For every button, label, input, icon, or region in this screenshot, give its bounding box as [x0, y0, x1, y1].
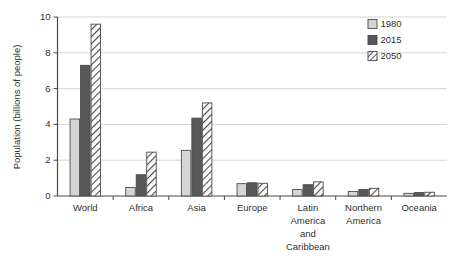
bar-oceania-1980 — [404, 193, 414, 196]
bar-europe-2015 — [248, 183, 258, 196]
chart-canvas: 0246810 WorldAfricaAsiaEuropeLatinAmeric… — [0, 0, 455, 263]
legend-swatch-2015 — [368, 36, 377, 45]
bar-asia-2050 — [202, 103, 212, 196]
bar-northern-america-1980 — [348, 192, 358, 196]
bar-europe-2050 — [258, 183, 268, 196]
x-axis-label: Oceania — [401, 202, 437, 213]
bar-latin-america-and-caribbean-1980 — [293, 190, 303, 196]
x-axis-label: and — [300, 228, 316, 239]
chart-legend: 198020152050 — [368, 18, 402, 61]
bar-northern-america-2015 — [359, 190, 369, 196]
legend-label-1980: 1980 — [381, 18, 402, 29]
bar-world-2050 — [91, 24, 101, 196]
y-tick-label: 6 — [45, 83, 50, 94]
bar-oceania-2015 — [414, 193, 424, 196]
bar-latin-america-and-caribbean-2015 — [303, 185, 313, 196]
bar-chart-figure: 0246810 WorldAfricaAsiaEuropeLatinAmeric… — [0, 0, 455, 263]
legend-swatch-2050 — [368, 52, 377, 61]
y-tick-label: 8 — [45, 47, 50, 58]
legend-label-2050: 2050 — [381, 50, 402, 61]
x-axis-label: America — [290, 215, 326, 226]
y-tick-label: 2 — [45, 154, 50, 165]
y-tick-label: 0 — [45, 190, 50, 201]
x-axis-label: World — [73, 202, 98, 213]
x-axis-label: Africa — [129, 202, 154, 213]
bar-world-1980 — [70, 119, 80, 196]
x-axis-label: Latin — [298, 202, 319, 213]
bar-latin-america-and-caribbean-2050 — [314, 182, 324, 196]
bar-africa-2015 — [136, 175, 146, 196]
bar-africa-2050 — [147, 152, 157, 196]
bar-europe-1980 — [237, 184, 247, 196]
y-tick-label: 4 — [45, 118, 50, 129]
legend-swatch-1980 — [368, 20, 377, 29]
bar-asia-1980 — [181, 150, 191, 196]
bar-northern-america-2050 — [369, 188, 379, 196]
x-axis-label: Asia — [187, 202, 206, 213]
y-tick-label: 10 — [40, 11, 51, 22]
bar-asia-2015 — [192, 118, 202, 196]
bar-oceania-2050 — [425, 192, 435, 196]
bar-world-2015 — [81, 65, 91, 196]
x-axis-label: America — [346, 215, 382, 226]
y-axis-title: Population (billions of people) — [11, 45, 22, 170]
x-axis-label: Caribbean — [286, 241, 330, 252]
legend-label-2015: 2015 — [381, 34, 402, 45]
x-axis-label: Europe — [237, 202, 268, 213]
x-axis-label: Northern — [345, 202, 382, 213]
bar-africa-1980 — [126, 187, 136, 196]
